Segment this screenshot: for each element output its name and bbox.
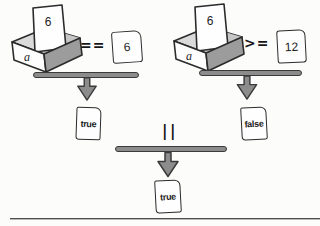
result-paper: true [154,179,182,213]
operand-value: 6 [123,40,131,54]
result-value: true [160,191,176,202]
page-rule-divider [10,218,320,220]
greater-equal-operator: >= [244,35,269,51]
result-value: false [244,118,264,129]
result-paper: false [240,106,268,140]
right-comparison-group: 6 a >= 12 false [0,0,320,226]
result-value: true [80,118,96,129]
variable-box-icon: 6 a [8,4,84,74]
evaluation-bar [115,146,227,152]
operand-paper: 12 [276,29,307,63]
arrow-down-icon [236,75,258,100]
left-comparison-group: 6 a == 6 true [0,0,320,226]
operand-paper: 6 [111,30,143,64]
boolean-expression-diagram: 6 a == 6 true 6 a >= 12 [0,0,320,226]
or-operator: || [162,122,178,140]
box-paper-value: 6 [207,14,214,28]
evaluation-bar [199,70,302,76]
variable-label: a [186,49,192,63]
arrow-down-icon [76,77,98,101]
result-paper: true [75,107,101,141]
variable-box-icon: 6 a [170,3,246,73]
equals-operator: == [80,37,105,53]
or-combination-group: || true [0,0,320,226]
evaluation-bar [33,72,139,78]
operand-value: 12 [284,39,298,54]
arrow-down-icon [157,151,179,178]
box-paper-value: 6 [45,15,52,29]
variable-label: a [24,50,30,64]
